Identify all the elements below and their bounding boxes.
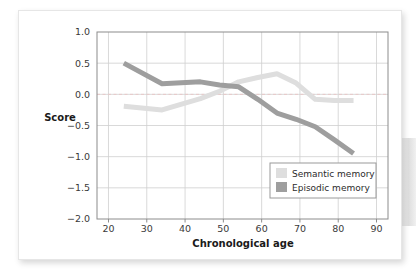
chart-canvas: 1.00.50.0−0.5−1.0−1.5−2.0 20304050607080… xyxy=(0,0,416,269)
x-axis-tick-marks xyxy=(108,219,376,223)
legend-swatch-episodic xyxy=(276,182,287,192)
x-tick-label: 20 xyxy=(102,223,114,234)
y-tick-label: 0.0 xyxy=(75,89,90,100)
x-axis-title: Chronological age xyxy=(192,238,294,249)
x-tick-label: 70 xyxy=(294,223,306,234)
y-tick-label: 0.5 xyxy=(75,58,90,69)
x-tick-label: 80 xyxy=(332,223,344,234)
x-tick-label: 40 xyxy=(179,223,191,234)
legend-swatch-semantic xyxy=(276,168,287,178)
y-tick-label: −1.0 xyxy=(67,151,90,162)
line-chart-svg: 1.00.50.0−0.5−1.0−1.5−2.0 20304050607080… xyxy=(0,0,416,269)
y-axis-tick-labels: 1.00.50.0−0.5−1.0−1.5−2.0 xyxy=(67,26,90,224)
figure-root: 1.00.50.0−0.5−1.0−1.5−2.0 20304050607080… xyxy=(0,0,416,269)
x-tick-label: 30 xyxy=(141,223,153,234)
chart-legend[interactable]: Semantic memory Episodic memory xyxy=(270,163,376,198)
x-tick-label: 60 xyxy=(256,223,268,234)
data-series-layer xyxy=(124,63,354,153)
x-axis-tick-labels: 2030405060708090 xyxy=(102,223,382,234)
x-tick-label: 50 xyxy=(217,223,229,234)
legend-label-episodic: Episodic memory xyxy=(292,183,370,193)
legend-label-semantic: Semantic memory xyxy=(292,169,375,179)
y-tick-label: −1.5 xyxy=(67,182,90,193)
y-axis-title: Score xyxy=(44,112,76,123)
x-tick-label: 90 xyxy=(370,223,382,234)
y-tick-label: −2.0 xyxy=(67,213,90,224)
y-tick-label: 1.0 xyxy=(75,26,90,37)
